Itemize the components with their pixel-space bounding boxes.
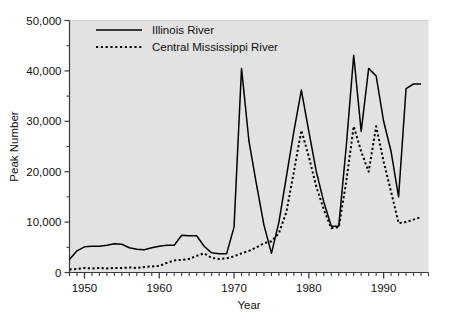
legend-label-2: Central Mississippi River (152, 41, 278, 53)
legend-label-1: Illinois River (152, 24, 214, 36)
x-tick-label: 1980 (296, 282, 322, 294)
plot-area-background (70, 21, 429, 273)
x-axis-title: Year (237, 299, 260, 311)
y-axis-title: Peak Number (8, 111, 20, 181)
y-tick-label: 20,000 (26, 166, 61, 178)
y-tick-label: 40,000 (26, 65, 61, 77)
x-tick-label: 1970 (221, 282, 247, 294)
y-tick-label: 0 (55, 267, 61, 279)
x-tick-label: 1960 (146, 282, 172, 294)
y-tick-label: 10,000 (26, 216, 61, 228)
y-tick-label: 50,000 (26, 15, 61, 27)
x-tick-label: 1990 (371, 282, 397, 294)
y-tick-label: 30,000 (26, 115, 61, 127)
x-tick-label: 1950 (72, 282, 98, 294)
figure-container: 010,00020,00030,00040,00050,000195019601… (0, 0, 459, 322)
peak-number-line-chart: 010,00020,00030,00040,00050,000195019601… (0, 0, 459, 322)
